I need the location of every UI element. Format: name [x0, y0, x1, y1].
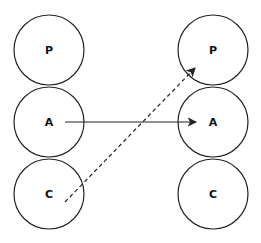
left-label-a: A: [45, 116, 54, 129]
right-label-c: C: [209, 188, 217, 201]
right-label-p: P: [209, 44, 217, 57]
dashed-arrow: [65, 68, 195, 202]
left-label-c: C: [45, 188, 53, 201]
right-label-a: A: [209, 116, 218, 129]
diagram-canvas: P A C P A C: [0, 0, 261, 243]
left-label-p: P: [45, 44, 53, 57]
